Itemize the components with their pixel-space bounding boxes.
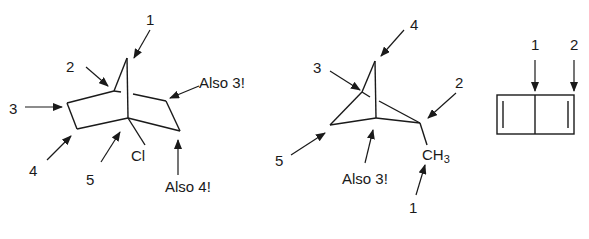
m1-label-2: 2 [66,59,74,74]
molecule-1-skeleton [67,58,180,145]
m2-label-5: 5 [275,153,283,168]
molecule-drawings [0,0,589,239]
m1-label-also-3: Also 3! [199,75,245,90]
m2-label-2: 2 [455,75,463,90]
m2-label-4: 4 [410,17,418,32]
m1-substituent-cl: Cl [131,148,145,163]
molecule-3-skeleton [497,95,574,134]
m1-label-also-4: Also 4! [165,179,211,194]
m1-label-3: 3 [9,101,17,116]
m1-label-5: 5 [86,172,94,187]
m2-substituent-ch3: CH3 [422,147,450,165]
m2-label-3: 3 [313,60,321,75]
m1-label-1: 1 [146,12,154,27]
m2-label-also-3: Also 3! [342,171,388,186]
molecule-3-arrows [535,60,574,91]
m3-label-2: 2 [570,37,578,52]
m1-label-4: 4 [29,163,37,178]
m2-label-1: 1 [409,200,417,215]
molecule-2-skeleton [330,61,427,145]
m3-label-1: 1 [531,37,539,52]
molecule-1-arrows [25,30,199,175]
